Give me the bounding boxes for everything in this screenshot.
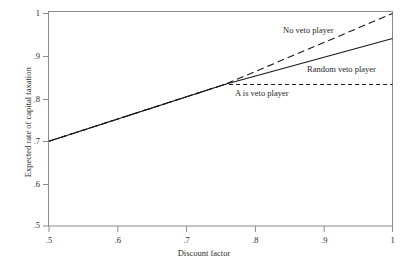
x-tick-label-07: .7 xyxy=(177,236,197,245)
y-tick-label-05: .5 xyxy=(22,221,40,230)
chart-figure: 1 .9 .8 .7 .6 .5 .5 .6 .7 .8 .9 1 Expect… xyxy=(0,0,408,270)
annotation-a-is-veto-player: A is veto player xyxy=(235,89,289,98)
x-axis-title: Discount factor xyxy=(0,249,408,258)
series-a-is-veto-player xyxy=(49,85,393,142)
annotation-random-veto-player: Random veto player xyxy=(307,65,376,74)
x-tick-label-06: .6 xyxy=(108,236,128,245)
series-random-veto-player xyxy=(49,39,393,142)
x-tick-label-1: 1 xyxy=(383,236,403,245)
y-axis-ticks xyxy=(43,14,49,227)
plot-canvas xyxy=(0,0,408,270)
x-axis-ticks xyxy=(49,226,393,232)
y-axis-title: Expected rate of capital taxation xyxy=(24,42,33,202)
y-tick-label-1: 1 xyxy=(22,9,40,18)
x-tick-label-05: .5 xyxy=(39,236,59,245)
x-tick-label-09: .9 xyxy=(314,236,334,245)
plot-frame xyxy=(49,12,393,227)
series-no-veto-player xyxy=(49,14,393,142)
annotation-no-veto-player: No veto player xyxy=(283,26,334,35)
x-tick-label-08: .8 xyxy=(245,236,265,245)
